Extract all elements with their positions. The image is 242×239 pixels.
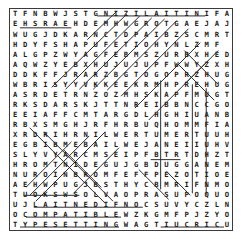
grid-cell: I bbox=[151, 99, 161, 109]
grid-cell: E bbox=[111, 210, 121, 220]
grid-cell: B bbox=[71, 170, 81, 180]
grid-cell: C bbox=[141, 200, 151, 210]
grid-cell: G bbox=[30, 29, 40, 39]
grid-cell: Z bbox=[91, 89, 101, 99]
grid-cell: I bbox=[111, 9, 121, 19]
grid-cell: A bbox=[71, 29, 81, 39]
grid-cell: L bbox=[20, 49, 30, 59]
grid-cell: M bbox=[121, 89, 131, 99]
grid-cell: A bbox=[161, 89, 171, 99]
grid-cell: T bbox=[222, 150, 232, 160]
grid-cell: R bbox=[171, 180, 181, 190]
grid-cell: M bbox=[161, 180, 171, 190]
grid-cell: E bbox=[111, 39, 121, 49]
grid-cell: J bbox=[20, 200, 30, 210]
grid-cell: P bbox=[131, 150, 141, 160]
grid-cell: P bbox=[50, 180, 60, 190]
grid-cell: N bbox=[101, 220, 111, 230]
grid-cell: E bbox=[20, 109, 30, 119]
grid-cell: G bbox=[222, 79, 232, 89]
grid-cell: O bbox=[30, 210, 40, 220]
grid-cell: Y bbox=[182, 200, 192, 210]
grid-cell: W bbox=[121, 140, 131, 150]
grid-cell: H bbox=[71, 120, 81, 130]
grid-cell: H bbox=[161, 120, 171, 130]
grid-cell: D bbox=[81, 19, 91, 29]
grid-cell: T bbox=[10, 9, 20, 19]
grid-cell: K bbox=[30, 69, 40, 79]
grid-cell: E bbox=[81, 200, 91, 210]
grid-cell: Y bbox=[71, 79, 81, 89]
grid-cell: T bbox=[121, 39, 131, 49]
grid-cell: H bbox=[202, 69, 212, 79]
grid-cell: T bbox=[161, 19, 171, 29]
grid-cell: I bbox=[50, 200, 60, 210]
grid-cell: D bbox=[151, 160, 161, 170]
grid-cell: G bbox=[91, 9, 101, 19]
grid-cell: A bbox=[10, 180, 20, 190]
grid-cell: W bbox=[171, 59, 181, 69]
grid-cell: L bbox=[111, 140, 121, 150]
grid-cell: X bbox=[30, 120, 40, 130]
grid-cell: S bbox=[10, 150, 20, 160]
grid-cell: P bbox=[131, 29, 141, 39]
grid-cell: A bbox=[40, 109, 50, 119]
grid-cell: D bbox=[20, 39, 30, 49]
grid-cell: P bbox=[182, 210, 192, 220]
grid-cell: J bbox=[131, 59, 141, 69]
grid-cell: U bbox=[121, 59, 131, 69]
grid-cell: F bbox=[20, 9, 30, 19]
grid-cell: U bbox=[20, 29, 30, 39]
grid-cell: J bbox=[111, 59, 121, 69]
grid-cell: N bbox=[161, 140, 171, 150]
grid-cell: S bbox=[161, 190, 171, 200]
grid-cell: R bbox=[30, 170, 40, 180]
grid-cell: R bbox=[40, 130, 50, 140]
grid-cell: J bbox=[121, 160, 131, 170]
grid-cell: Z bbox=[192, 69, 202, 79]
grid-cell: P bbox=[151, 170, 161, 180]
grid-cell: I bbox=[151, 29, 161, 39]
grid-cell: J bbox=[192, 210, 202, 220]
grid-cell: R bbox=[141, 19, 151, 29]
grid-cell: G bbox=[171, 19, 181, 29]
grid-cell: B bbox=[121, 49, 131, 59]
grid-cell: M bbox=[161, 130, 171, 140]
grid-cell: Z bbox=[212, 150, 222, 160]
grid-cell: J bbox=[81, 180, 91, 190]
grid-cell: E bbox=[111, 79, 121, 89]
grid-cell: U bbox=[212, 190, 222, 200]
grid-cell: E bbox=[121, 130, 131, 140]
grid-cell: N bbox=[202, 160, 212, 170]
grid-cell: B bbox=[30, 140, 40, 150]
grid-cell: D bbox=[40, 89, 50, 99]
grid-cell: H bbox=[222, 59, 232, 69]
grid-cell: H bbox=[171, 109, 181, 119]
grid-cell: T bbox=[171, 9, 181, 19]
grid-cell: N bbox=[71, 200, 81, 210]
grid-cell: R bbox=[20, 130, 30, 140]
grid-cell: G bbox=[131, 160, 141, 170]
grid-cell: W bbox=[10, 29, 20, 39]
grid-cell: J bbox=[40, 29, 50, 39]
grid-cell: A bbox=[10, 49, 20, 59]
grid-cell: R bbox=[71, 69, 81, 79]
grid-cell: B bbox=[20, 79, 30, 89]
grid-cell: T bbox=[111, 29, 121, 39]
grid-cell: K bbox=[40, 190, 50, 200]
grid-cell: T bbox=[111, 99, 121, 109]
grid-cell: I bbox=[50, 170, 60, 180]
grid-cell: O bbox=[30, 160, 40, 170]
grid-cell: O bbox=[141, 69, 151, 79]
grid-cell: G bbox=[171, 160, 181, 170]
grid-cell: A bbox=[50, 19, 60, 29]
grid-cell: D bbox=[10, 69, 20, 79]
grid-cell: S bbox=[30, 99, 40, 109]
grid-cell: I bbox=[202, 220, 212, 230]
grid-cell: R bbox=[30, 89, 40, 99]
grid-cell: H bbox=[151, 39, 161, 49]
grid-cell: E bbox=[212, 49, 222, 59]
grid-cell: A bbox=[81, 69, 91, 79]
grid-cell: P bbox=[81, 39, 91, 49]
grid-cell: T bbox=[222, 89, 232, 99]
